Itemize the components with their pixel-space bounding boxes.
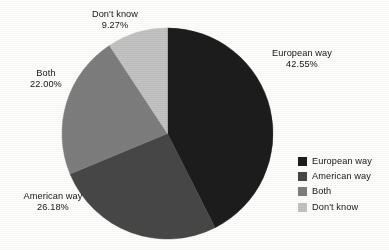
- legend-item-don-t-know[interactable]: Don't know: [298, 201, 372, 214]
- legend-swatch-both: [298, 187, 307, 196]
- slice-callout-both-label: Both: [12, 68, 80, 79]
- legend-label-european-way: European way: [312, 156, 372, 167]
- chart-legend: European wayAmerican wayBothDon't know: [298, 155, 372, 214]
- slice-callout-dont-know: Don't know 9.27%: [73, 9, 157, 32]
- legend-item-american-way[interactable]: American way: [298, 170, 372, 183]
- slice-callout-dont-know-value: 9.27%: [73, 20, 157, 31]
- pie-chart-figure: Don't know 9.27% Both 22.00% American wa…: [0, 0, 389, 250]
- slice-callout-european-way-label: European way: [253, 48, 351, 59]
- legend-swatch-european-way: [298, 157, 307, 166]
- legend-swatch-don-t-know: [298, 203, 307, 212]
- slice-callout-american-way: American way 26.18%: [0, 191, 106, 214]
- slice-callout-both-value: 22.00%: [12, 79, 80, 90]
- legend-label-don-t-know: Don't know: [312, 202, 358, 213]
- legend-item-european-way[interactable]: European way: [298, 155, 372, 168]
- slice-callout-european-way: European way 42.55%: [253, 48, 351, 71]
- slice-callout-american-way-value: 26.18%: [0, 202, 106, 213]
- legend-label-american-way: American way: [312, 171, 371, 182]
- slice-callout-both: Both 22.00%: [12, 68, 80, 91]
- slice-callout-european-way-value: 42.55%: [253, 59, 351, 70]
- legend-label-both: Both: [312, 186, 331, 197]
- legend-swatch-american-way: [298, 172, 307, 181]
- legend-item-both[interactable]: Both: [298, 185, 372, 198]
- slice-callout-american-way-label: American way: [0, 191, 106, 202]
- slice-callout-dont-know-label: Don't know: [73, 9, 157, 20]
